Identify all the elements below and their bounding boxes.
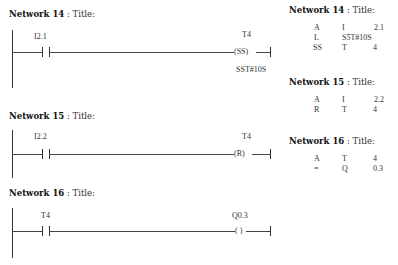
set-pulse-timer-coil[interactable]: (SS) (234, 47, 248, 57)
stl-operand: T (342, 105, 347, 114)
contact-left-bar[interactable] (42, 226, 43, 236)
stl-operand: I (342, 23, 345, 32)
stl-address: 2.1 (374, 23, 384, 32)
rung-wire (12, 154, 42, 155)
reset-coil[interactable]: (R) (234, 149, 245, 159)
left-power-rail (12, 208, 13, 258)
rung-wire (49, 52, 234, 53)
ladder-network-14-title: Network 14 : Title: (9, 9, 95, 19)
coil-label: T4 (242, 132, 251, 141)
stl-address: 4 (373, 154, 377, 163)
contact-label: T4 (41, 211, 50, 220)
rung-wire (252, 154, 270, 155)
right-rail-stub (270, 226, 271, 236)
network-number: Network 14 (289, 5, 344, 15)
stl-network-16-title: Network 16 : Title: (289, 136, 375, 146)
network-title-suffix: : Title: (344, 136, 375, 146)
rung-wire (49, 154, 234, 155)
left-power-rail (12, 30, 13, 88)
rung-wire (256, 52, 270, 53)
stl-op: = (314, 164, 319, 173)
network-title-suffix: : Title: (64, 111, 95, 121)
network-title-suffix: : Title: (344, 5, 375, 15)
contact-left-bar[interactable] (42, 47, 43, 57)
stl-op: A (314, 95, 320, 104)
stl-address: 2.2 (374, 95, 384, 104)
coil-label: T4 (242, 30, 251, 39)
stl-operand: S5T#10S (342, 33, 372, 42)
network-number: Network 15 (289, 77, 344, 87)
stl-op: R (314, 105, 319, 114)
stl-op: A (314, 23, 320, 32)
network-title-suffix: : Title: (64, 188, 95, 198)
timer-preset-value: SST#10S (236, 65, 266, 74)
right-rail-stub (270, 47, 271, 57)
stl-op: A (314, 154, 320, 163)
network-number: Network 15 (9, 111, 64, 121)
stl-operand: Q (342, 164, 348, 173)
stl-operand: T (342, 43, 347, 52)
network-number: Network 16 (9, 188, 64, 198)
ladder-network-15-title: Network 15 : Title: (9, 111, 95, 121)
contact-left-bar[interactable] (42, 149, 43, 159)
network-number: Network 16 (289, 136, 344, 146)
stl-op: SS (313, 43, 322, 52)
stl-operand: T (342, 154, 347, 163)
stl-address: 4 (373, 105, 377, 114)
rung-wire (49, 231, 236, 232)
right-rail-stub (270, 149, 271, 159)
contact-label: I2.2 (34, 132, 47, 141)
contact-label: I2.1 (34, 32, 47, 41)
stl-network-14-title: Network 14 : Title: (289, 5, 375, 15)
ladder-network-16-title: Network 16 : Title: (9, 188, 95, 198)
stl-address: 4 (373, 43, 377, 52)
rung-wire (246, 231, 270, 232)
network-title-suffix: : Title: (344, 77, 375, 87)
stl-operand: I (342, 95, 345, 104)
rung-wire (12, 231, 42, 232)
stl-network-15-title: Network 15 : Title: (289, 77, 375, 87)
network-number: Network 14 (9, 9, 64, 19)
stl-address: 0.3 (373, 164, 383, 173)
coil-label: Q0.3 (232, 211, 248, 220)
network-title-suffix: : Title: (64, 9, 95, 19)
rung-wire (12, 52, 42, 53)
output-coil[interactable]: ( ) (235, 226, 242, 236)
stl-op: L (314, 33, 319, 42)
